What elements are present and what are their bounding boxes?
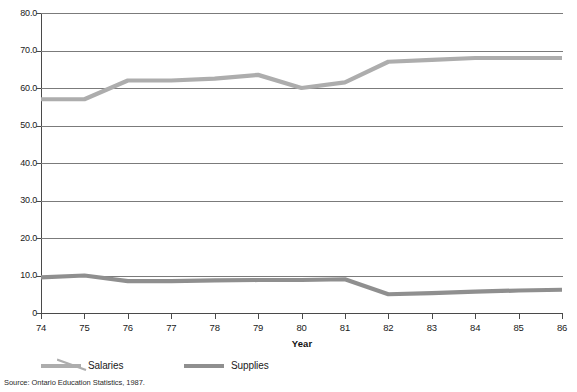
x-tick-label-76: 76 xyxy=(123,323,133,333)
legend-swatch-supplies-icon xyxy=(184,359,224,371)
y-tick-label-30: 30.0 xyxy=(3,196,37,205)
x-tick-label-84: 84 xyxy=(470,323,480,333)
x-tick-mark-76 xyxy=(128,314,129,319)
x-tick-mark-80 xyxy=(302,314,303,319)
legend-item-supplies[interactable]: Supplies xyxy=(184,357,269,373)
x-tick-mark-74 xyxy=(41,314,42,319)
x-tick-label-75: 75 xyxy=(79,323,89,333)
x-tick-mark-81 xyxy=(345,314,346,319)
x-tick-mark-79 xyxy=(258,314,259,319)
x-tick-mark-82 xyxy=(388,314,389,319)
y-tick-label-70: 70.0 xyxy=(3,46,37,55)
y-tick-label-20: 20.0 xyxy=(3,234,37,243)
y-tick-label-10: 10.0 xyxy=(3,271,37,280)
y-tick-label-60: 60.0 xyxy=(3,84,37,93)
y-tick-label-80: 80.0 xyxy=(3,9,37,18)
legend-swatch-salaries-icon xyxy=(41,359,81,371)
y-tick-label-50: 50.0 xyxy=(3,121,37,130)
series-line-supplies xyxy=(41,276,562,295)
plot-area xyxy=(41,13,563,313)
x-tick-label-80: 80 xyxy=(296,323,306,333)
x-tick-label-86: 86 xyxy=(557,323,567,333)
x-tick-mark-75 xyxy=(84,314,85,319)
x-tick-label-82: 82 xyxy=(383,323,393,333)
chart-figure: 80.070.060.050.040.030.020.010.00 747576… xyxy=(0,0,577,392)
x-axis-title: Year xyxy=(41,338,563,349)
x-tick-mark-77 xyxy=(171,314,172,319)
x-tick-mark-85 xyxy=(519,314,520,319)
x-tick-mark-78 xyxy=(215,314,216,319)
x-tick-label-78: 78 xyxy=(210,323,220,333)
chart-title-cropped xyxy=(0,0,577,3)
y-tick-label-0: 0 xyxy=(3,309,37,318)
x-tick-label-83: 83 xyxy=(427,323,437,333)
x-tick-label-85: 85 xyxy=(513,323,523,333)
x-axis-tick-labels: 74757677787980818283848586 xyxy=(41,314,563,340)
series-lines xyxy=(41,13,563,313)
legend-tail-salaries-icon xyxy=(57,358,87,372)
x-tick-mark-83 xyxy=(432,314,433,319)
chart-legend: Salaries Supplies xyxy=(41,357,501,375)
legend-item-salaries[interactable]: Salaries xyxy=(41,357,123,373)
x-tick-label-77: 77 xyxy=(166,323,176,333)
source-note: Source: Ontario Education Statistics, 19… xyxy=(4,378,145,387)
x-tick-label-79: 79 xyxy=(253,323,263,333)
y-axis-tick-labels: 80.070.060.050.040.030.020.010.00 xyxy=(0,13,37,314)
y-tick-label-40: 40.0 xyxy=(3,159,37,168)
x-tick-label-81: 81 xyxy=(340,323,350,333)
x-tick-mark-86 xyxy=(562,314,563,319)
legend-label-supplies: Supplies xyxy=(231,360,269,371)
x-tick-label-74: 74 xyxy=(36,323,46,333)
x-tick-mark-84 xyxy=(475,314,476,319)
series-line-salaries xyxy=(41,58,562,99)
legend-label-salaries: Salaries xyxy=(88,360,123,371)
